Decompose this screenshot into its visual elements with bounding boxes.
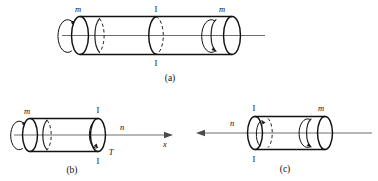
panel-c-internal-torque-arrowhead [262,121,266,125]
panel-b-left-torque-label: m [24,106,30,116]
panel-b-internal-torque-label: T [109,147,115,157]
panel-b-normal-label: n [120,122,124,132]
panel-a-right-torque-label: m [219,4,225,14]
figure-root: m m I I (a) m [0,0,378,181]
panel-c: I I n m (c) [196,103,372,175]
panel-c-axis-arrowhead [196,130,205,136]
panel-c-section-top-label: I [253,103,256,113]
panel-b-axis-arrowhead [164,132,173,138]
panel-b-caption: (b) [66,165,77,176]
panel-c-normal-label: n [230,118,234,128]
panel-a-section-bottom-label: I [155,58,158,68]
panel-c-caption: (c) [280,164,291,175]
panel-a-left-torque-arc [58,20,72,53]
panel-a: m m I I (a) [58,4,265,84]
panel-a-left-torque-label: m [75,4,81,14]
panel-a-section-top-label: I [155,4,158,14]
panel-b: m I I T n x (b) [11,105,173,176]
panel-b-section-top-label: I [97,105,100,115]
figure-svg: m m I I (a) m [0,0,378,181]
panel-c-right-torque-label: m [318,103,324,113]
panel-b-axis-label: x [162,139,167,149]
panel-b-internal-torque-arrowhead [94,143,98,147]
panel-b-section-bottom-label: I [97,156,100,166]
panel-a-caption: (a) [165,73,176,84]
panel-c-section-bottom-label: I [253,154,256,164]
